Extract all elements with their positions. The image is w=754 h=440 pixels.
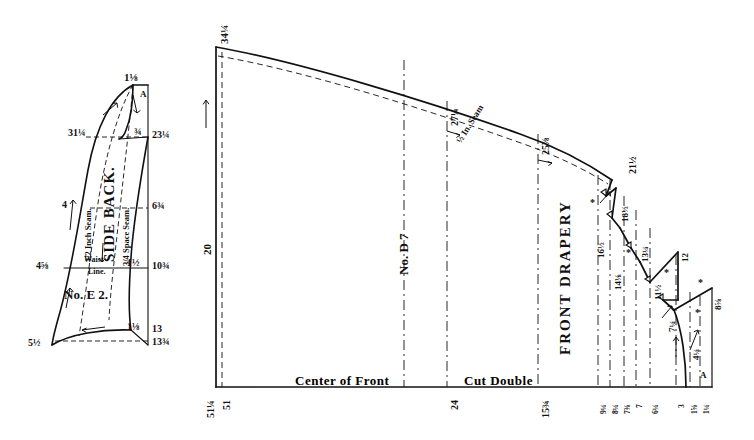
- sideback-measure-13: 13: [152, 324, 162, 334]
- drapery-measure-20: 20: [202, 244, 213, 255]
- drapery-step-measure-16-1-2: 16½: [597, 242, 606, 258]
- sideback-measure-1-1-8-hem: 1⅛: [127, 322, 140, 332]
- drapery-step-measure-4-1-4: 4¼: [692, 349, 701, 360]
- sideback-seam-label-right: 3/4 Space Seam.: [122, 208, 131, 266]
- drapery-measure-27-1-4: 27¼: [450, 109, 460, 127]
- tick-step2: [662, 306, 672, 318]
- tick-step4: [690, 330, 698, 350]
- drapery-step-2: [612, 188, 616, 218]
- drapery-notch-3: [631, 248, 640, 262]
- notch-marker-2: [607, 211, 612, 218]
- sideback-side-seam-curve: [129, 137, 148, 330]
- drapery-top-curve: [216, 47, 612, 180]
- drapery-step-measure-8-5-8: 8⅝: [714, 299, 723, 310]
- drapery-corner-letter-a: A: [700, 371, 707, 380]
- notch-marker-4: [645, 276, 650, 282]
- cut-double-label: Cut Double: [464, 373, 533, 389]
- sideback-measure-4-5-8: 4⅝: [36, 261, 49, 271]
- sideback-piece-name: SIDE BACK.: [102, 166, 117, 262]
- drapery-step-measure-13-1-4: 13¼: [641, 246, 650, 262]
- drapery-piece-number: No. D 7: [397, 233, 410, 275]
- asterisk-3: *: [664, 268, 669, 278]
- sideback-corner-letter-a: A: [140, 90, 147, 99]
- drapery-step-measure-11-1-2: 11½: [654, 285, 663, 300]
- sideback-seam-label-left: 1/2 Inch Seam.: [84, 208, 93, 262]
- sideback-measure-31-1-4: 31¼: [68, 128, 86, 138]
- sideback-piece-number: No. E 2.: [64, 288, 108, 301]
- drapery-step-measure-18-1-2: 18½: [621, 206, 630, 222]
- sideback-measure-13-3-4: 13¾: [152, 337, 170, 347]
- bottom-measure-9-1-4: 9¼: [600, 405, 608, 414]
- drapery-measure-21-1-2: 21½: [628, 157, 638, 175]
- sideback-measure-3-4: ¾: [134, 127, 142, 137]
- drapery-right-top-edge: [674, 288, 712, 310]
- bottom-measure-51-1-4: 51¼: [206, 401, 216, 419]
- drapery-measure-25-7-8: 25⅞: [541, 138, 551, 156]
- drapery-step-measure-12: 12: [681, 253, 690, 262]
- sideback-measure-1-1-8: 1⅛: [124, 72, 138, 83]
- bottom-measure-7: 7: [636, 404, 644, 408]
- bottom-measure-6-1-4: 6¼: [652, 405, 660, 414]
- sideback-measure-4: 4: [62, 200, 67, 210]
- asterisk-1: *: [590, 198, 595, 208]
- bottom-measure-1-5-8: 1⅝: [691, 405, 699, 414]
- bottom-measure-15-3-4: 15¾: [541, 401, 551, 419]
- center-of-front-label: Center of Front: [295, 373, 389, 389]
- bottom-measure-1-1-4: 1¼: [703, 405, 711, 414]
- sideback-waist-label-2: Line.: [88, 268, 106, 276]
- drapery-step-measure-14-1-8: 14⅛: [614, 274, 623, 290]
- asterisk-5: *: [695, 308, 700, 318]
- sideback-hem-curve: [52, 330, 131, 345]
- bottom-measure-8-1-4: 8¼: [612, 405, 620, 414]
- bottom-measure-51: 51: [222, 400, 232, 410]
- sideback-measure-5-1-2: 5½: [28, 338, 41, 348]
- sideback-hem-tail: [131, 330, 148, 345]
- sideback-measure-23-1-4: 23¼: [152, 130, 170, 140]
- sideback-measure-6-3-4: 6¾: [152, 201, 165, 211]
- asterisk-4: *: [698, 278, 703, 288]
- sideback-measure-10-3-4: 10¾: [152, 261, 170, 271]
- drapery-piece-name: FRONT DRAPERY: [558, 200, 573, 355]
- bottom-measure-7-3-8: 7⅜: [624, 405, 632, 414]
- notch-marker-1: [601, 189, 606, 196]
- pattern-draft-canvas: 1⅛ A ¾ 31¼ 4 4⅝ 5½ 23¼ 6¾ 10¾ 13 13¾ 1½ …: [0, 0, 754, 440]
- bottom-measure-24: 24: [450, 400, 460, 410]
- bottom-measure-3: 3: [678, 404, 686, 408]
- asterisk-2: *: [626, 248, 631, 258]
- arrow-sb-3: [70, 200, 73, 230]
- drapery-notch-2: [612, 218, 620, 228]
- drapery-measure-34-1-4: 34¼: [219, 25, 230, 44]
- arrow-sb-1: [103, 103, 117, 115]
- drapery-step-measure-7-1-4: 7¼: [668, 321, 677, 332]
